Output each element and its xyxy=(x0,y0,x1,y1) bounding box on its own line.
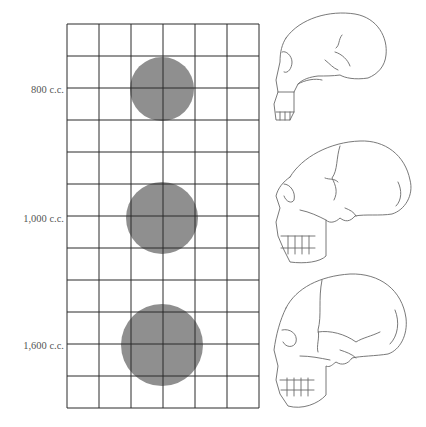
small-archaic-skull-icon xyxy=(274,13,386,120)
large-modern-skull-icon xyxy=(274,274,406,407)
skull-illustrations xyxy=(0,0,426,427)
medium-skull-icon xyxy=(276,141,411,263)
brain-volume-figure: 800 c.c. 1,000 c.c. 1,600 c.c. xyxy=(0,0,426,427)
